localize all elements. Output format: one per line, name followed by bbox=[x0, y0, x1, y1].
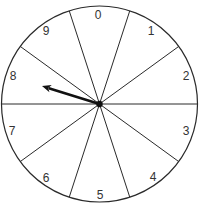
sector-label-9: 9 bbox=[43, 24, 50, 38]
spinner-diagram: 0 1 2 3 4 5 6 7 8 9 bbox=[0, 0, 200, 208]
center-hub bbox=[96, 101, 102, 107]
sector-label-8: 8 bbox=[10, 69, 17, 83]
sector-label-4: 4 bbox=[150, 170, 157, 184]
sector-label-2: 2 bbox=[183, 69, 190, 83]
sector-label-3: 3 bbox=[183, 124, 190, 138]
sector-label-5: 5 bbox=[97, 188, 104, 202]
sector-label-7: 7 bbox=[9, 124, 16, 138]
sector-label-1: 1 bbox=[148, 24, 155, 38]
sector-label-0: 0 bbox=[95, 8, 102, 22]
sector-label-6: 6 bbox=[43, 171, 50, 185]
